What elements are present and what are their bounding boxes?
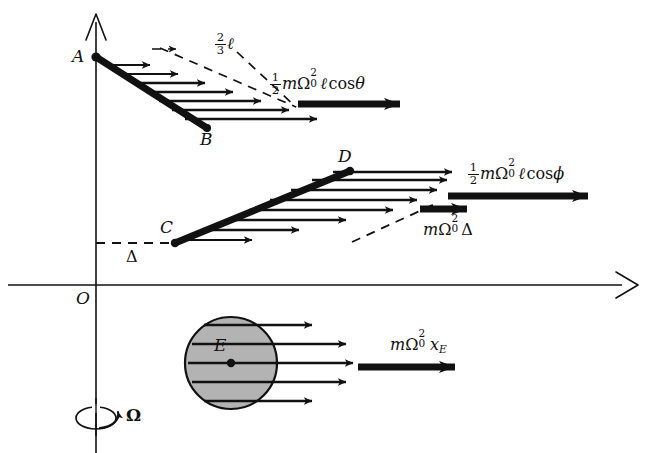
figure-canvas (0, 0, 661, 453)
cos-operator: cos (527, 164, 554, 183)
force-label-rod-cd: 1 2 mΩ20ℓ cosϕ (468, 162, 564, 187)
delta-dimension-label: Δ (126, 249, 138, 265)
omega-symbol: Ω (438, 220, 451, 239)
sphere-group (185, 317, 455, 409)
point-label-d: D (338, 148, 352, 165)
rod-cd (175, 171, 350, 243)
rotation-rate-label: Ω (126, 407, 141, 424)
fraction-one-half: 1 2 (270, 72, 281, 97)
mass-symbol: m (390, 335, 405, 354)
omega-exponent-index: 20 (310, 73, 320, 89)
ell-symbol: ℓ (227, 34, 234, 53)
omega-exponent-index: 20 (418, 334, 428, 350)
omega-symbol: Ω (405, 335, 418, 354)
rotation-symbol-group (76, 398, 118, 436)
point-a-dot (91, 52, 100, 61)
physics-figure: A B C D E O Ω 2 3 ℓ Δ 1 2 mΩ20ℓ cosθ 1 2… (0, 0, 661, 453)
point-label-e: E (214, 337, 226, 354)
omega-exponent-index: 20 (451, 219, 461, 235)
omega-symbol: Ω (495, 164, 508, 183)
mass-symbol: m (423, 220, 438, 239)
force-label-rod-ab: 1 2 mΩ20ℓ cosθ (270, 72, 365, 97)
mass-symbol: m (480, 164, 495, 183)
cos-operator: cos (329, 74, 356, 93)
angle-theta: θ (355, 74, 365, 93)
point-c-dot (171, 239, 179, 247)
point-label-c: C (160, 219, 173, 236)
fraction-one-half: 1 2 (468, 162, 479, 187)
ell-symbol: ℓ (518, 164, 525, 183)
force-label-delta: mΩ20Δ (423, 219, 473, 238)
position-variable-subscript: E (439, 343, 447, 355)
omega-symbol: Ω (297, 74, 310, 93)
point-e-dot (227, 359, 235, 367)
point-label-b: B (200, 131, 213, 148)
point-d-dot (346, 167, 354, 175)
fraction-two-thirds: 2 3 (215, 32, 226, 57)
force-label-sphere: mΩ20 xE (390, 334, 447, 355)
origin-label: O (76, 290, 90, 307)
point-label-a: A (72, 48, 84, 65)
omega-exponent-index: 20 (508, 163, 518, 179)
angle-phi: ϕ (553, 164, 564, 183)
position-variable: x (430, 335, 439, 354)
delta-symbol: Δ (461, 220, 473, 239)
ell-symbol: ℓ (320, 74, 327, 93)
mass-symbol: m (282, 74, 297, 93)
two-thirds-ell-label: 2 3 ℓ (215, 32, 234, 57)
